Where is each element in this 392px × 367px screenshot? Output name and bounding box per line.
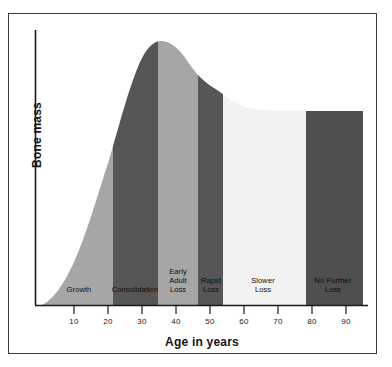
x-tick-label-80: 80	[301, 317, 323, 326]
x-tick-label-10: 10	[63, 317, 85, 326]
x-axis-ticks	[74, 305, 346, 314]
x-axis-title: Age in years	[36, 335, 368, 349]
x-tick-label-60: 60	[233, 317, 255, 326]
bone-mass-area-chart	[0, 0, 392, 367]
band-early-adult-loss	[158, 30, 198, 305]
x-tick-label-20: 20	[97, 317, 119, 326]
x-tick-label-90: 90	[335, 317, 357, 326]
x-tick-label-30: 30	[131, 317, 153, 326]
band-growth	[36, 30, 113, 305]
band-label-no-further-loss: No Further Loss	[307, 276, 359, 294]
band-label-rapid-loss: Rapid Loss	[198, 276, 224, 294]
band-label-consolidation: Consolidation	[110, 285, 160, 294]
y-axis-title: Bone mass	[30, 65, 44, 205]
band-label-early-adult-loss: Early Adult Loss	[159, 267, 197, 294]
band-slower-loss	[223, 30, 306, 305]
band-label-slower-loss: Slower Loss	[232, 276, 294, 294]
band-fills	[36, 30, 363, 305]
band-rapid-loss	[198, 30, 223, 305]
band-no-further-loss	[306, 30, 363, 305]
band-consolidation	[113, 30, 158, 305]
x-tick-label-50: 50	[199, 317, 221, 326]
x-tick-label-70: 70	[267, 317, 289, 326]
bone-mass-figure: Bone mass Age in years 10 20 30 40 50 60…	[0, 0, 392, 367]
x-tick-label-40: 40	[165, 317, 187, 326]
band-label-growth: Growth	[46, 285, 112, 294]
